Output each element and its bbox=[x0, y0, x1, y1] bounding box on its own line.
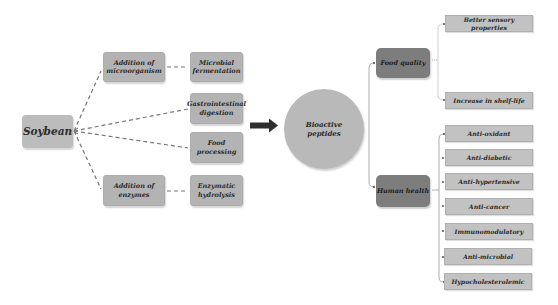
outcome-label: Anti-oxidant bbox=[468, 130, 511, 138]
soybean-node: Soybean bbox=[22, 115, 73, 148]
process-node-digestion: Gastrointestinal digestion bbox=[190, 93, 243, 124]
process-node-hydrolysis: Enzymatic hydrolysis bbox=[190, 175, 243, 206]
outcome-label: Anti-hypertensive bbox=[458, 178, 519, 186]
method-label: Addition of enzymes bbox=[103, 182, 165, 198]
soybean-label: Soybean bbox=[23, 125, 72, 138]
product-label: Bioactive peptides bbox=[304, 120, 344, 138]
outcome-hypocholesterolemic: Hypocholesterolemic bbox=[444, 273, 532, 290]
process-label: Microbial fermentation bbox=[190, 59, 243, 75]
method-node-enzymes: Addition of enzymes bbox=[103, 175, 165, 206]
outcome-anti-cancer: Anti-cancer bbox=[445, 198, 533, 215]
outcome-label: Better sensory properties bbox=[446, 16, 532, 32]
method-node-microorganism: Addition of microorganism bbox=[103, 52, 165, 82]
process-node-food-processing: Food processing bbox=[190, 132, 243, 163]
outcome-label: Increase in shelf-life bbox=[453, 97, 525, 105]
outcome-immunomodulatory: Immunomodulatory bbox=[445, 223, 533, 240]
category-label: Human health bbox=[377, 187, 429, 195]
category-human-health: Human health bbox=[376, 175, 430, 207]
outcome-anti-diabetic: Anti-diabetic bbox=[445, 149, 533, 166]
method-label: Addition of microorganism bbox=[103, 59, 165, 75]
outcome-label: Anti-diabetic bbox=[466, 154, 511, 162]
outcome-label: Immunomodulatory bbox=[455, 228, 524, 236]
outcome-anti-hypertensive: Anti-hypertensive bbox=[445, 173, 533, 190]
outcome-sensory: Better sensory properties bbox=[445, 15, 533, 32]
category-label: Food quality bbox=[381, 59, 426, 67]
process-label: Enzymatic hydrolysis bbox=[190, 182, 243, 198]
outcome-anti-microbial: Anti-microbial bbox=[444, 248, 532, 265]
arrow-icon bbox=[250, 119, 278, 133]
outcome-label: Hypocholesterolemic bbox=[451, 278, 524, 286]
outcome-label: Anti-microbial bbox=[463, 253, 513, 261]
bioactive-peptides-node: Bioactive peptides bbox=[284, 89, 364, 169]
outcome-label: Anti-cancer bbox=[469, 203, 509, 211]
process-label: Gastrointestinal digestion bbox=[187, 100, 246, 116]
category-food-quality: Food quality bbox=[376, 48, 430, 78]
outcome-shelf-life: Increase in shelf-life bbox=[445, 92, 533, 109]
outcome-anti-oxidant: Anti-oxidant bbox=[445, 125, 533, 142]
process-node-fermentation: Microbial fermentation bbox=[190, 52, 243, 82]
process-label: Food processing bbox=[190, 139, 243, 155]
